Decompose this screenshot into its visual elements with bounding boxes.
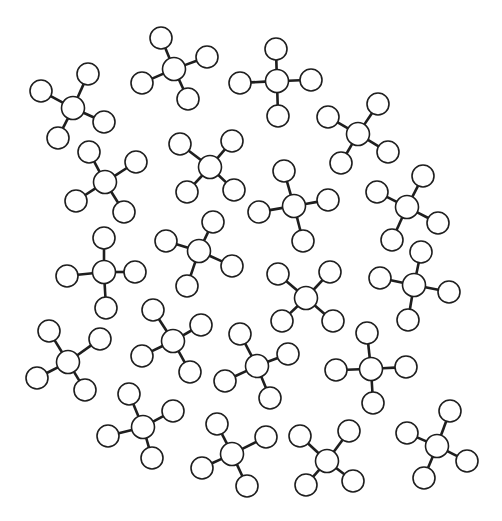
- outer-atom: [38, 320, 60, 342]
- outer-atom: [292, 230, 314, 252]
- outer-atom: [155, 230, 177, 252]
- central-atom: [132, 416, 155, 439]
- outer-atom: [141, 447, 163, 469]
- outer-atom: [319, 261, 341, 283]
- outer-atom: [397, 309, 419, 331]
- outer-atom: [65, 190, 87, 212]
- outer-atom: [295, 474, 317, 496]
- outer-atom: [191, 457, 213, 479]
- outer-atom: [206, 413, 228, 435]
- central-atom: [266, 70, 289, 93]
- outer-atom: [56, 265, 78, 287]
- outer-atom: [124, 261, 146, 283]
- outer-atom: [125, 151, 147, 173]
- outer-atom: [248, 201, 270, 223]
- outer-atom: [342, 470, 364, 492]
- outer-atom: [202, 211, 224, 233]
- outer-atom: [410, 241, 432, 263]
- outer-atom: [223, 179, 245, 201]
- outer-atom: [93, 227, 115, 249]
- outer-atom: [47, 127, 69, 149]
- outer-atom: [214, 370, 236, 392]
- outer-atom: [413, 467, 435, 489]
- outer-atom: [322, 310, 344, 332]
- outer-atom: [97, 425, 119, 447]
- outer-atom: [395, 356, 417, 378]
- central-atom: [93, 261, 116, 284]
- outer-atom: [78, 141, 100, 163]
- central-atom: [57, 351, 80, 374]
- outer-atom: [131, 345, 153, 367]
- outer-atom: [427, 212, 449, 234]
- outer-atom: [142, 299, 164, 321]
- outer-atom: [177, 88, 199, 110]
- outer-atom: [229, 323, 251, 345]
- outer-atom: [377, 141, 399, 163]
- outer-atom: [289, 425, 311, 447]
- central-atom: [347, 123, 370, 146]
- outer-atom: [118, 383, 140, 405]
- outer-atom: [439, 400, 461, 422]
- central-atom: [221, 443, 244, 466]
- central-atom: [360, 358, 383, 381]
- outer-atom: [356, 322, 378, 344]
- outer-atom: [367, 93, 389, 115]
- outer-atom: [362, 392, 384, 414]
- outer-atom: [338, 420, 360, 442]
- central-atom: [199, 156, 222, 179]
- outer-atom: [381, 229, 403, 251]
- central-atom: [283, 195, 306, 218]
- outer-atom: [179, 361, 201, 383]
- outer-atom: [221, 130, 243, 152]
- outer-atom: [330, 152, 352, 174]
- outer-atom: [366, 181, 388, 203]
- outer-atom: [131, 72, 153, 94]
- outer-atom: [267, 105, 289, 127]
- central-atom: [396, 196, 419, 219]
- outer-atom: [369, 267, 391, 289]
- outer-atom: [113, 201, 135, 223]
- central-atom: [62, 97, 85, 120]
- outer-atom: [176, 275, 198, 297]
- outer-atom: [30, 80, 52, 102]
- outer-atom: [273, 160, 295, 182]
- outer-atom: [77, 63, 99, 85]
- central-atom: [94, 171, 117, 194]
- outer-atom: [277, 343, 299, 365]
- central-atom: [163, 58, 186, 81]
- bond-line: [383, 368, 396, 369]
- bond-line: [78, 273, 93, 275]
- outer-atom: [317, 189, 339, 211]
- outer-atom: [89, 328, 111, 350]
- bond-line: [105, 284, 106, 298]
- outer-atom: [190, 314, 212, 336]
- outer-atom: [162, 400, 184, 422]
- bond-line: [372, 381, 373, 393]
- outer-atom: [196, 46, 218, 68]
- outer-atom: [259, 387, 281, 409]
- central-atom: [188, 240, 211, 263]
- outer-atom: [412, 165, 434, 187]
- outer-atom: [265, 38, 287, 60]
- outer-atom: [176, 181, 198, 203]
- outer-atom: [95, 297, 117, 319]
- central-atom: [316, 450, 339, 473]
- central-atom: [162, 330, 185, 353]
- outer-atom: [74, 379, 96, 401]
- bond-line: [368, 344, 370, 358]
- outer-atom: [267, 263, 289, 285]
- bond-line: [251, 82, 266, 83]
- outer-atom: [229, 72, 251, 94]
- molecule-diagram: [0, 0, 502, 521]
- outer-atom: [236, 475, 258, 497]
- outer-atom: [93, 111, 115, 133]
- outer-atom: [325, 359, 347, 381]
- outer-atom: [271, 310, 293, 332]
- outer-atom: [221, 255, 243, 277]
- outer-atom: [26, 367, 48, 389]
- outer-atom: [300, 69, 322, 91]
- outer-atom: [169, 133, 191, 155]
- outer-atom: [396, 422, 418, 444]
- central-atom: [295, 287, 318, 310]
- central-atom: [403, 274, 426, 297]
